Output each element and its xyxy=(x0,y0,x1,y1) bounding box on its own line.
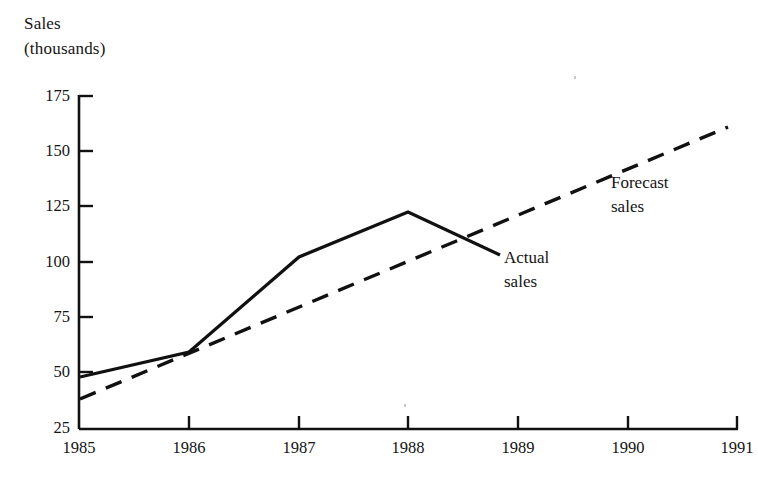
actual-sales-annotation-line-2: sales xyxy=(504,270,549,294)
forecast-sales-annotation-line-1: Forecast xyxy=(611,171,669,195)
series-forecast-sales-line xyxy=(80,127,728,399)
scan-speck xyxy=(574,76,576,79)
y-tick-label-150: 150 xyxy=(22,143,70,160)
y-tick-label-125: 125 xyxy=(22,198,70,215)
x-tick-label-1987: 1987 xyxy=(269,440,329,457)
x-axis-ticks xyxy=(189,416,737,429)
x-tick-label-1988: 1988 xyxy=(378,440,438,457)
y-tick-label-100: 100 xyxy=(22,254,70,271)
x-tick-label-1989: 1989 xyxy=(488,440,548,457)
forecast-sales-annotation: Forecast sales xyxy=(611,171,669,219)
forecast-sales-annotation-line-2: sales xyxy=(611,195,669,219)
y-axis-ticks xyxy=(79,96,93,372)
y-tick-label-175: 175 xyxy=(22,88,70,105)
scan-speck xyxy=(404,404,406,407)
actual-sales-annotation-line-1: Actual xyxy=(504,246,549,270)
x-tick-label-1991: 1991 xyxy=(707,440,758,457)
x-tick-label-1986: 1986 xyxy=(159,440,219,457)
series-actual-sales-line xyxy=(80,212,500,377)
y-axis-title-line-2: (thousands) xyxy=(24,36,106,61)
y-axis-title-line-1: Sales xyxy=(24,11,61,36)
actual-sales-annotation: Actual sales xyxy=(504,246,549,294)
y-tick-label-25: 25 xyxy=(22,420,70,437)
x-tick-label-1990: 1990 xyxy=(598,440,658,457)
y-tick-label-75: 75 xyxy=(22,309,70,326)
y-tick-label-50: 50 xyxy=(22,364,70,381)
x-tick-label-1985: 1985 xyxy=(49,440,109,457)
